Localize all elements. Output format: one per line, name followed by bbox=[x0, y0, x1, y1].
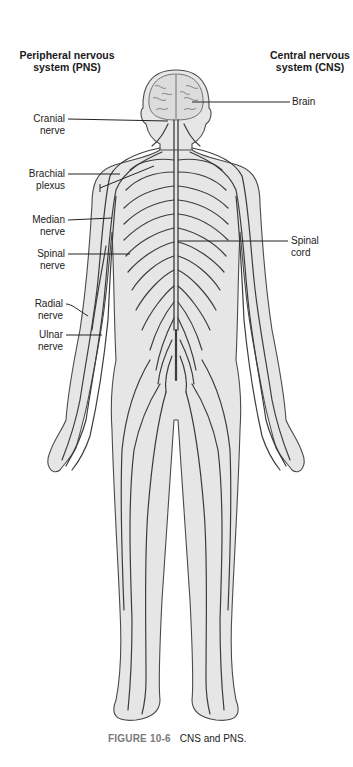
label-line: Cranial bbox=[33, 113, 65, 125]
label-line: nerve bbox=[32, 226, 65, 238]
label-line: Spinal bbox=[291, 235, 319, 247]
label-line: Brachial bbox=[29, 168, 65, 180]
label-line: nerve bbox=[35, 310, 63, 322]
label-brachial-plexus: Brachial plexus bbox=[29, 168, 65, 191]
caption-text: CNS and PNS. bbox=[180, 733, 247, 744]
label-line: Brain bbox=[292, 96, 315, 108]
label-spinal-cord: Spinal cord bbox=[291, 235, 319, 258]
label-median-nerve: Median nerve bbox=[32, 214, 65, 237]
label-line: Spinal bbox=[37, 248, 65, 260]
figure-number: FIGURE 10-6 bbox=[108, 733, 171, 744]
label-line: Median bbox=[32, 214, 65, 226]
label-spinal-nerve: Spinal nerve bbox=[37, 248, 65, 271]
label-line: nerve bbox=[37, 260, 65, 272]
label-ulnar-nerve: Ulnar nerve bbox=[38, 329, 63, 352]
label-line: Ulnar bbox=[38, 329, 63, 341]
label-cranial-nerve: Cranial nerve bbox=[33, 113, 65, 136]
label-line: Radial bbox=[35, 298, 63, 310]
label-brain: Brain bbox=[292, 96, 315, 108]
figure-caption: FIGURE 10-6CNS and PNS. bbox=[108, 733, 246, 744]
brain-drawing bbox=[149, 74, 203, 120]
label-radial-nerve: Radial nerve bbox=[35, 298, 63, 321]
body-outline bbox=[48, 150, 304, 720]
label-line: cord bbox=[291, 247, 319, 259]
label-line: nerve bbox=[33, 125, 65, 137]
label-line: plexus bbox=[29, 180, 65, 192]
label-line: nerve bbox=[38, 341, 63, 353]
